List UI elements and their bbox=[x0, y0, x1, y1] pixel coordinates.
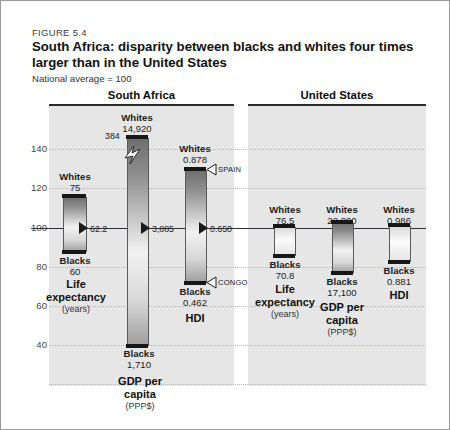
bar-us-gdp-cap-top bbox=[331, 220, 353, 224]
panel-title-united-states: United States bbox=[248, 89, 426, 101]
us-hdi-bottom-label: Blacks 0.881 bbox=[371, 265, 427, 287]
us-category-gdp: GDP per capita (PPP$) bbox=[309, 301, 375, 339]
bar-sa-gdp-cap-top bbox=[126, 135, 148, 139]
us-life-top-group: Whites bbox=[257, 204, 313, 215]
bar-sa-hdi-cap-top bbox=[184, 167, 206, 171]
us-category-hdi: HDI bbox=[371, 289, 427, 302]
gridline-140 bbox=[49, 149, 426, 150]
bar-us-hdi-cap-bottom bbox=[388, 260, 410, 264]
sa-life-bottom-group: Blacks bbox=[47, 255, 103, 266]
sa-hdi-top-group: Whites bbox=[167, 143, 223, 154]
bar-us-hdi bbox=[389, 226, 411, 262]
bar-us-gdp bbox=[332, 223, 354, 273]
sa-hdi-top-label: Whites 0.878 bbox=[167, 143, 223, 165]
gridline-120 bbox=[49, 188, 426, 189]
us-category-life-expectancy: Life expectancy (years) bbox=[253, 283, 317, 321]
sa-hdi-bottom-value: 0.462 bbox=[167, 297, 223, 308]
sa-life-top-label: Whites 75 bbox=[47, 171, 103, 193]
sa-hdi-bottom-group: Blacks bbox=[167, 286, 223, 297]
us-hdi-bottom-value: 0.881 bbox=[371, 276, 427, 287]
sa-category-life-expectancy: Life expectancy (years) bbox=[45, 278, 107, 316]
sa-gdp-avg-value: 3,885 bbox=[152, 224, 174, 234]
figure-number: FIGURE 5.4 bbox=[32, 27, 87, 38]
bar-us-life-cap-top bbox=[273, 224, 295, 228]
sa-gdp-bottom-label: Blacks 1,710 bbox=[111, 348, 167, 370]
us-life-top-label: Whites 76.5 bbox=[257, 204, 313, 226]
bar-sa-gdp bbox=[127, 138, 149, 346]
bar-us-hdi-cap-top bbox=[388, 223, 410, 227]
sa-life-avg-value: 62.2 bbox=[90, 224, 107, 234]
bar-us-life-cap-bottom bbox=[273, 254, 295, 258]
gridline-40 bbox=[49, 345, 426, 346]
bar-sa-hdi-cap-bottom bbox=[184, 281, 206, 285]
us-life-bottom-group: Blacks bbox=[257, 259, 313, 270]
sa-gdp-bottom-group: Blacks bbox=[111, 348, 167, 359]
us-gdp-bottom-label: Blacks 17,100 bbox=[314, 276, 370, 298]
us-gdp-bottom-group: Blacks bbox=[314, 276, 370, 287]
sa-gdp-bottom-value: 1,710 bbox=[111, 359, 167, 370]
sa-gdp-break-value: 384 bbox=[105, 131, 120, 141]
axis-tick-140: 140 bbox=[23, 143, 47, 154]
sa-life-bottom-value: 60 bbox=[47, 266, 103, 277]
us-life-bottom-value: 70.8 bbox=[257, 270, 313, 281]
axis-tick-120: 120 bbox=[23, 182, 47, 193]
sa-life-top-value: 75 bbox=[47, 182, 103, 193]
sa-life-top-group: Whites bbox=[47, 171, 103, 182]
axis-tick-40: 40 bbox=[23, 339, 47, 350]
axis-break-icon bbox=[125, 146, 145, 164]
figure-title: South Africa: disparity between blacks a… bbox=[32, 39, 432, 70]
us-gdp-bottom-value: 17,100 bbox=[314, 287, 370, 298]
bar-us-gdp-cap-bottom bbox=[331, 271, 353, 275]
figure-subtitle: National average = 100 bbox=[32, 73, 131, 84]
gridline-80 bbox=[49, 267, 426, 268]
us-life-bottom-label: Blacks 70.8 bbox=[257, 259, 313, 281]
panel-title-south-africa: South Africa bbox=[49, 89, 234, 101]
bar-sa-life-cap-bottom bbox=[62, 250, 86, 254]
us-hdi-bottom-group: Blacks bbox=[371, 265, 427, 276]
sa-category-gdp: GDP per capita (PPP$) bbox=[105, 375, 175, 413]
bar-us-life bbox=[274, 227, 296, 256]
sa-gdp-top-group: Whites bbox=[109, 112, 165, 123]
axis-tick-60: 60 bbox=[23, 300, 47, 311]
us-gdp-top-group: Whites bbox=[314, 204, 370, 215]
figure-container: FIGURE 5.4 South Africa: disparity betwe… bbox=[0, 0, 450, 430]
sa-hdi-bottom-label: Blacks 0.462 bbox=[167, 286, 223, 308]
bar-sa-life-cap-top bbox=[62, 194, 86, 198]
sa-life-bottom-label: Blacks 60 bbox=[47, 255, 103, 277]
us-hdi-top-group: Whites bbox=[371, 204, 427, 215]
sa-hdi-avg-value: 0.650 bbox=[210, 224, 232, 234]
spain-marker-label: SPAIN bbox=[218, 165, 241, 174]
axis-tick-80: 80 bbox=[23, 261, 47, 272]
sa-category-hdi: HDI bbox=[167, 312, 223, 325]
